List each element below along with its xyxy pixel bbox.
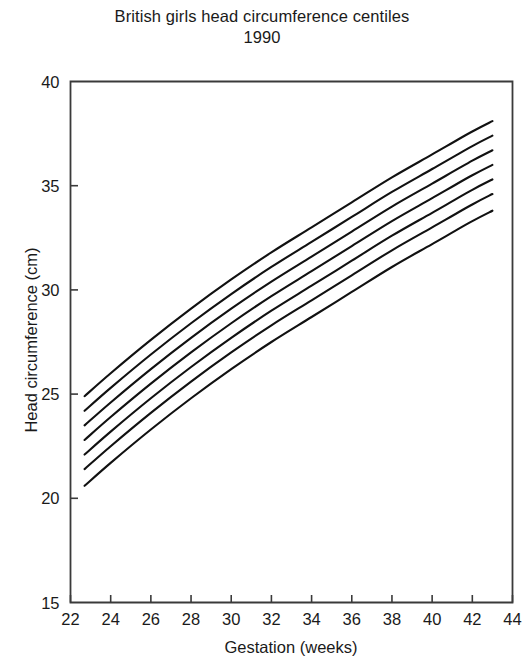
x-tick-label: 42 xyxy=(463,610,481,628)
centile-curve xyxy=(85,165,493,440)
x-tick-label: 28 xyxy=(182,610,200,628)
x-tick-label: 40 xyxy=(423,610,441,628)
x-tick-label: 36 xyxy=(343,610,361,628)
plot-frame xyxy=(71,82,513,603)
x-tick-label: 30 xyxy=(222,610,240,628)
axis-group xyxy=(71,82,513,603)
x-tick-label: 34 xyxy=(302,610,320,628)
centile-curve xyxy=(85,121,493,396)
x-tick-label: 22 xyxy=(61,610,79,628)
x-tick-label: 32 xyxy=(262,610,280,628)
centile-curve xyxy=(85,150,493,425)
plot-area: 222426283032343638404244152025303540 Hea… xyxy=(0,0,524,671)
x-tick-label: 26 xyxy=(142,610,160,628)
y-tick-label: 25 xyxy=(41,385,59,403)
centile-curve xyxy=(85,136,493,411)
y-axis-label: Head circumference (cm) xyxy=(22,130,41,550)
y-tick-label: 15 xyxy=(41,594,59,612)
x-axis-label: Gestation (weeks) xyxy=(70,638,512,657)
y-tick-label: 40 xyxy=(41,73,59,91)
centile-curve xyxy=(85,179,493,454)
chart-figure: British girls head circumference centile… xyxy=(0,0,524,671)
x-tick-label: 44 xyxy=(503,610,521,628)
y-tick-label: 35 xyxy=(41,177,59,195)
centile-chart-svg: 222426283032343638404244152025303540 xyxy=(0,0,524,671)
y-tick-label: 30 xyxy=(41,281,59,299)
centile-curves xyxy=(85,121,493,486)
centile-curve xyxy=(85,211,493,486)
x-tick-label: 24 xyxy=(102,610,120,628)
x-tick-label: 38 xyxy=(383,610,401,628)
tick-label-group: 222426283032343638404244152025303540 xyxy=(41,73,522,628)
y-tick-label: 20 xyxy=(41,489,59,507)
